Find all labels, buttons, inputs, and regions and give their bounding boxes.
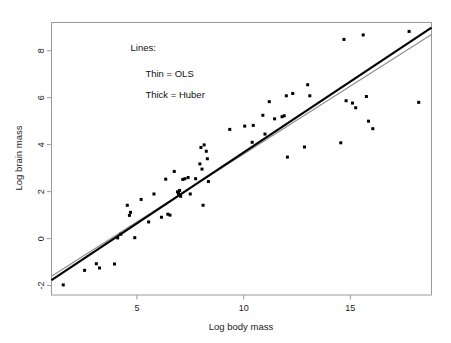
data-point [417, 101, 420, 104]
data-point [83, 269, 86, 272]
x-tick-label-10: 10 [239, 303, 249, 313]
data-point [201, 168, 204, 171]
data-point [286, 156, 289, 159]
y-tick-label-8: 8 [37, 48, 47, 53]
data-point [178, 189, 181, 192]
data-point [173, 170, 176, 173]
y-tick-label-6: 6 [37, 95, 47, 100]
data-point [119, 233, 122, 236]
data-point [183, 177, 186, 180]
data-point [291, 92, 294, 95]
figure-container: 51015 -202468 Lines:Thin = OLSThick = Hu… [0, 0, 451, 343]
data-point [351, 102, 354, 105]
data-point [205, 150, 208, 153]
x-tick-label-15: 15 [345, 303, 355, 313]
data-point [198, 162, 201, 165]
data-point [354, 106, 357, 109]
data-point [268, 100, 271, 103]
data-point [303, 146, 306, 149]
data-point [179, 195, 182, 198]
data-point [345, 99, 348, 102]
data-point [251, 141, 254, 144]
y-axis-title: Log brain mass [13, 125, 24, 190]
data-point [342, 38, 345, 41]
data-point [207, 180, 210, 183]
x-axis-title: Log body mass [209, 321, 274, 332]
data-point [273, 117, 276, 120]
data-point [243, 125, 246, 128]
data-point [113, 262, 116, 265]
data-point [147, 220, 150, 223]
y-tick-label-2: 2 [37, 189, 47, 194]
data-point [408, 30, 411, 33]
data-point [189, 192, 192, 195]
y-tick-label-0: 0 [37, 236, 47, 241]
data-point [228, 128, 231, 131]
data-point [367, 120, 370, 123]
data-point [261, 114, 264, 117]
data-point [285, 94, 288, 97]
data-point [306, 83, 309, 86]
data-point [339, 141, 342, 144]
data-point [168, 214, 171, 217]
annotation-0: Lines: [130, 42, 155, 53]
annotation-2: Thick = Huber [145, 89, 204, 100]
data-point [152, 192, 155, 195]
data-point [203, 143, 206, 146]
data-point [160, 216, 163, 219]
data-point [98, 266, 101, 269]
data-point [133, 236, 136, 239]
y-tick-label-4: 4 [37, 142, 47, 147]
data-point [202, 204, 205, 207]
data-point [126, 204, 129, 207]
data-point [206, 157, 209, 160]
data-point [129, 211, 132, 214]
data-point [116, 236, 119, 239]
data-point [187, 176, 190, 179]
data-point [362, 33, 365, 36]
y-tick-label--2: -2 [37, 282, 47, 290]
data-point [128, 214, 131, 217]
plot-background [0, 0, 451, 343]
data-point [252, 124, 255, 127]
data-point [263, 133, 266, 136]
data-point [62, 283, 65, 286]
scatter-plot: 51015 -202468 Lines:Thin = OLSThick = Hu… [0, 0, 451, 343]
data-point [177, 192, 180, 195]
data-point [140, 198, 143, 201]
data-point [308, 94, 311, 97]
data-point [164, 178, 167, 181]
data-point [199, 146, 202, 149]
data-point [95, 262, 98, 265]
data-point [283, 114, 286, 117]
annotation-1: Thin = OLS [145, 68, 193, 79]
data-point [371, 127, 374, 130]
x-tick-label-5: 5 [134, 303, 139, 313]
data-point [194, 177, 197, 180]
data-point [365, 95, 368, 98]
